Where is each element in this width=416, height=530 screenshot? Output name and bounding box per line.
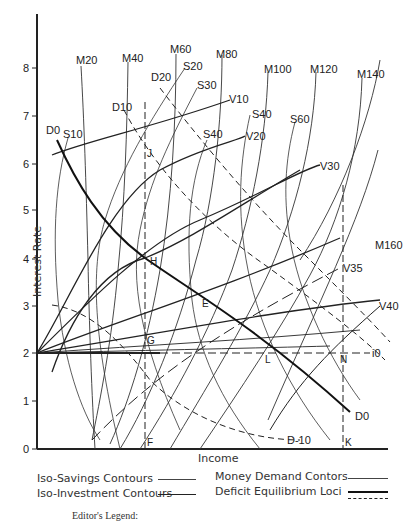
svg-text:V35: V35 <box>343 262 363 274</box>
legend-iso-investment-swatch <box>158 494 196 495</box>
svg-text:D-10: D-10 <box>287 434 311 446</box>
legend-money-demand: Money Demand Contors <box>215 470 348 483</box>
svg-text:8: 8 <box>23 62 29 74</box>
svg-text:M40: M40 <box>122 52 143 64</box>
legend-iso-savings: Iso-Savings Contours <box>37 472 153 485</box>
svg-text:3: 3 <box>23 300 29 312</box>
svg-text:M140: M140 <box>357 68 385 80</box>
legend-iso-savings-swatch <box>158 479 196 480</box>
svg-text:D10: D10 <box>112 101 132 113</box>
legend-money-demand-swatch <box>348 478 388 479</box>
svg-text:M160: M160 <box>375 239 403 251</box>
legend-deficit-solid-swatch <box>348 491 388 493</box>
svg-text:H: H <box>150 256 157 267</box>
svg-text:M80: M80 <box>216 48 237 60</box>
iso-contour-diagram: 0 1 2 3 4 5 6 7 8 <box>0 0 416 530</box>
y-axis-label: Interest Rate <box>31 217 44 307</box>
svg-text:4: 4 <box>23 253 29 265</box>
svg-text:7: 7 <box>23 110 29 122</box>
svg-text:J: J <box>147 148 152 159</box>
svg-text:1: 1 <box>23 395 29 407</box>
vertical-guides <box>145 102 343 449</box>
svg-text:M20: M20 <box>76 54 97 66</box>
svg-text:K: K <box>345 437 352 448</box>
svg-text:L: L <box>265 354 271 365</box>
svg-text:G: G <box>147 335 155 346</box>
svg-text:S40: S40 <box>252 108 272 120</box>
svg-text:V20: V20 <box>246 130 266 142</box>
svg-text:V10: V10 <box>229 93 249 105</box>
legend-iso-investment: Iso-Investment Contours <box>37 487 172 500</box>
svg-text:D0: D0 <box>46 124 60 136</box>
svg-text:S60: S60 <box>290 113 310 125</box>
svg-text:S40: S40 <box>203 128 223 140</box>
svg-text:6: 6 <box>23 158 29 170</box>
svg-text:D0: D0 <box>355 410 369 422</box>
editors-legend-caption: Editor's Legend: <box>72 510 138 521</box>
legend-deficit-loci: Deficit Equilibrium Loci <box>215 485 342 498</box>
svg-text:S20: S20 <box>183 60 203 72</box>
money-demand-labels: M20 M40 M60 M80 M100 M120 M140 M160 <box>76 43 403 251</box>
svg-text:5: 5 <box>23 204 29 216</box>
svg-text:0: 0 <box>23 443 29 455</box>
svg-text:E: E <box>202 298 209 309</box>
svg-text:S10: S10 <box>63 128 83 140</box>
svg-text:D20: D20 <box>151 71 171 83</box>
svg-text:i0: i0 <box>372 347 381 359</box>
y-tick-labels: 0 1 2 3 4 5 6 7 8 <box>23 62 29 455</box>
x-axis-label: Income <box>198 452 238 465</box>
svg-text:M100: M100 <box>264 63 292 75</box>
svg-text:2: 2 <box>23 347 29 359</box>
deficit-loci-dashed <box>52 88 390 440</box>
svg-text:M60: M60 <box>170 43 191 55</box>
legend-deficit-dashed-swatch <box>348 498 388 499</box>
svg-text:S30: S30 <box>197 79 217 91</box>
svg-text:N: N <box>340 354 347 365</box>
investment-labels: V10 V20 V30 V35 V40 <box>229 93 399 312</box>
svg-text:V40: V40 <box>379 300 399 312</box>
svg-text:V30: V30 <box>320 160 340 172</box>
svg-text:F: F <box>147 437 153 448</box>
svg-text:M120: M120 <box>310 63 338 75</box>
deficit-loci-solid <box>57 140 350 412</box>
